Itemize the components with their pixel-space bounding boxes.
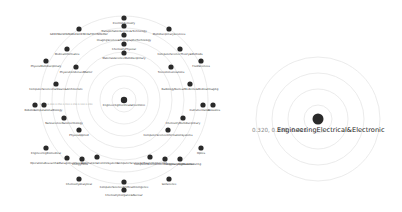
network-node[interactable]: ComputerScienceTheory&Methods [157, 46, 203, 56]
node-dot[interactable] [121, 187, 126, 192]
node-label: EngineeringBiomedical [31, 152, 61, 155]
network-node[interactable]: ComputerScienceHardware&Architecture [29, 81, 83, 91]
node-label: Acoustics [208, 109, 221, 112]
node-label: ComputerScienceTheory&Methods [157, 53, 203, 56]
node-label: EngineeringManufacturing [167, 163, 202, 166]
node-dot[interactable] [121, 50, 126, 55]
node-label: RadiologyNuclearMedicine&MedicalImaging [162, 88, 219, 91]
node-dot[interactable] [121, 179, 126, 184]
node-dot[interactable] [79, 156, 84, 161]
right-focus-canvas[interactable]: 0.320, 0.300, 0.411 EngineeringElectrica… [244, 0, 402, 212]
node-dot[interactable] [166, 176, 171, 181]
left-radial-network: 0.320 0.300 0.250 0.200 0.150 0.100 0.05… [0, 0, 244, 212]
node-dot[interactable] [121, 32, 126, 37]
network-node[interactable]: Acoustics [208, 102, 221, 112]
node-dot[interactable] [61, 115, 66, 120]
focus-node-label: EngineeringElectrical&Electronic [277, 126, 385, 134]
node-dot[interactable] [162, 156, 167, 161]
node-dot[interactable] [187, 81, 192, 86]
network-node[interactable]: MaterialsScienceMultidisciplinary [102, 50, 146, 60]
node-dot[interactable] [166, 26, 171, 31]
node-label: Automation&ControlSystems [81, 162, 119, 165]
node-label: GREENSUSTAINABLESCIENCE&TECHNOLOGY [50, 33, 108, 36]
node-label: Optics [197, 152, 206, 155]
node-dot[interactable] [76, 26, 81, 31]
node-dot[interactable] [76, 176, 81, 181]
network-node[interactable]: MultidisciplinarySciences [153, 26, 186, 36]
node-label: ComputerScienceHardware&Architecture [29, 88, 83, 91]
network-node[interactable]: ChemistryMultidisciplinary [166, 115, 201, 125]
network-node[interactable]: ChemistryAnalytical [66, 176, 92, 186]
node-dot[interactable] [121, 23, 126, 28]
node-dot[interactable] [168, 64, 173, 69]
network-node[interactable]: ComputerScienceInformationSystems [144, 127, 194, 137]
network-node[interactable]: PhysicsMultidisciplinary [31, 58, 62, 68]
node-label: SoilScience [162, 183, 177, 186]
center-node[interactable] [121, 97, 127, 103]
node-dot[interactable] [121, 15, 126, 20]
node-label: Telecommunications [158, 71, 185, 74]
node-dot[interactable] [177, 46, 182, 51]
node-dot[interactable] [43, 58, 48, 63]
node-label: MedicalInformatics [55, 53, 80, 56]
node-dot[interactable] [64, 46, 69, 51]
node-dot[interactable] [180, 115, 185, 120]
node-dot[interactable] [147, 154, 152, 159]
axis-ticks: 0.320 0.300 0.250 0.200 0.150 0.100 0.05… [40, 103, 93, 106]
node-dot[interactable] [41, 102, 46, 107]
node-dot[interactable] [53, 81, 58, 86]
right-focus-view: 0.320, 0.300, 0.411 EngineeringElectrica… [244, 0, 402, 212]
node-label: ChemistryInorganic&Nuclear [105, 194, 143, 197]
node-label: MaterialsScienceMultidisciplinary [102, 57, 146, 60]
node-dot[interactable] [177, 156, 182, 161]
node-label: PhysicsMultidisciplinary [31, 65, 62, 68]
network-node[interactable]: Telecommunications [158, 64, 185, 74]
node-label: ComputationalBiology [34, 109, 63, 112]
network-node[interactable]: NanoscienceNanotechnology [45, 115, 83, 125]
node-dot[interactable] [64, 155, 69, 160]
network-node[interactable]: SoilScience [162, 176, 177, 186]
center-node-label: EngineeringElectrical&Electronic [103, 104, 146, 107]
network-node[interactable]: EngineeringManufacturing [167, 156, 202, 166]
node-label: ChemistryAnalytical [66, 183, 92, 186]
node-dot[interactable] [198, 145, 203, 150]
node-dot[interactable] [210, 102, 215, 107]
node-label: ChemistryMultidisciplinary [166, 122, 201, 125]
node-dot[interactable] [200, 102, 205, 107]
network-node[interactable]: GREENSUSTAINABLESCIENCE&TECHNOLOGY [50, 26, 108, 36]
network-node[interactable]: Automation&ControlSystems [81, 154, 119, 165]
node-dot[interactable] [198, 58, 203, 63]
network-node[interactable]: ChemistryPhysical [112, 41, 136, 51]
network-node[interactable]: FluidSciences [192, 58, 210, 68]
left-network-canvas[interactable]: 0.320 0.300 0.250 0.200 0.150 0.100 0.05… [0, 0, 244, 212]
node-label: PhysicsApplied [69, 134, 89, 137]
node-dot[interactable] [121, 41, 126, 46]
node-dot[interactable] [94, 154, 99, 159]
node-dot[interactable] [73, 64, 78, 69]
node-dot[interactable] [32, 102, 37, 107]
node-dot[interactable] [76, 127, 81, 132]
node-label: MultidisciplinarySciences [153, 33, 186, 36]
node-label: PhysicsCondensedMatter [60, 71, 94, 74]
network-node[interactable]: Optics [197, 145, 206, 155]
node-label: ComputerScienceInformationSystems [144, 134, 194, 137]
node-label: FluidSciences [192, 65, 210, 68]
node-dot[interactable] [165, 127, 170, 132]
node-label: NanoscienceNanotechnology [45, 122, 83, 125]
node-dot[interactable] [43, 145, 48, 150]
network-node[interactable]: PhysicsCondensedMatter [60, 64, 94, 74]
focus-node[interactable] [313, 114, 324, 125]
network-node[interactable]: TransportationScience&Technology [101, 23, 147, 33]
